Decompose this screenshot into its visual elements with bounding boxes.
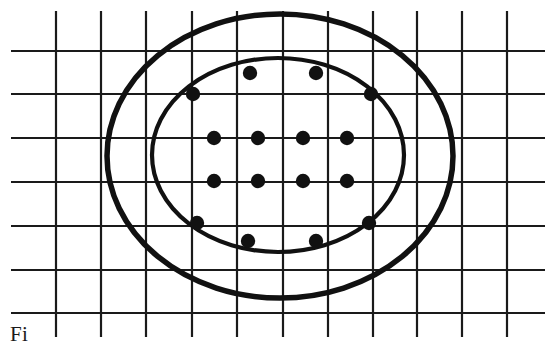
data-point-3 — [186, 87, 200, 101]
data-point-2 — [309, 66, 323, 80]
data-point-14 — [362, 216, 376, 230]
data-point-4 — [364, 87, 378, 101]
scatter-plot-figure — [0, 0, 555, 347]
data-point-8 — [340, 131, 354, 145]
data-point-16 — [309, 234, 323, 248]
data-point-15 — [241, 234, 255, 248]
figure-container: Fi — [0, 0, 555, 347]
data-point-7 — [296, 131, 310, 145]
data-point-5 — [207, 131, 221, 145]
data-point-6 — [251, 131, 265, 145]
data-point-11 — [296, 174, 310, 188]
data-point-12 — [340, 174, 354, 188]
data-point-1 — [243, 66, 257, 80]
data-point-13 — [190, 216, 204, 230]
data-point-9 — [207, 174, 221, 188]
data-point-10 — [251, 174, 265, 188]
